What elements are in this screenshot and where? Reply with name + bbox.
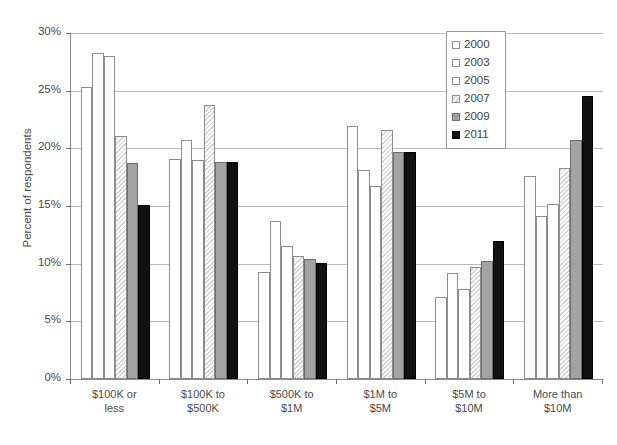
legend-label: 2011	[464, 129, 489, 141]
x-axis-label-line: More than	[513, 388, 602, 402]
bar-2000	[347, 126, 359, 379]
legend-item-2005[interactable]: 2005	[452, 72, 501, 90]
x-axis-label-line: less	[70, 402, 159, 416]
x-axis-label: $100K orless	[70, 388, 159, 415]
bar-2003	[536, 216, 548, 379]
legend-label: 2005	[464, 75, 490, 87]
x-axis-tick	[70, 379, 71, 384]
x-axis-label-line: $5M to	[425, 388, 514, 402]
bar-2011	[493, 241, 505, 379]
legend-label: 2009	[464, 111, 490, 123]
bar-2003	[447, 273, 459, 379]
x-axis-label-line: $500K	[159, 402, 248, 416]
bar-2011	[404, 152, 416, 379]
bar-2005	[458, 289, 470, 379]
x-axis-tick	[425, 379, 426, 384]
bar-2005	[104, 56, 116, 379]
x-axis-label-line: $1M	[247, 402, 336, 416]
bar-2009	[127, 163, 139, 379]
x-axis-label: $5M to$10M	[425, 388, 514, 415]
bar-2000	[435, 297, 447, 379]
bar-2005	[370, 186, 382, 379]
bar-group	[514, 33, 603, 379]
x-axis-tick	[247, 379, 248, 384]
bar-chart: Percent of respondents 0%5%10%15%20%25%3…	[0, 0, 617, 445]
bar-2005	[547, 204, 559, 379]
bar-2011	[138, 205, 150, 379]
x-axis-label: $1M to$5M	[336, 388, 425, 415]
x-axis-tick	[513, 379, 514, 384]
bar-group	[71, 33, 160, 379]
legend-swatch-icon	[452, 59, 460, 67]
x-axis-label-line: $10M	[513, 402, 602, 416]
chart-legend: 200020032005200720092011	[446, 31, 506, 149]
legend-label: 2000	[464, 39, 490, 51]
bar-2009	[304, 259, 316, 379]
bar-2007	[293, 256, 305, 379]
y-axis-tick-label: 0%	[15, 371, 61, 383]
bar-2003	[92, 53, 104, 379]
bar-group	[160, 33, 249, 379]
bar-2009	[393, 152, 405, 379]
bar-2000	[169, 159, 181, 379]
x-axis-label-line: $100K to	[159, 388, 248, 402]
bar-2007	[204, 105, 216, 379]
bar-2011	[316, 263, 328, 379]
legend-item-2003[interactable]: 2003	[452, 54, 501, 72]
x-axis-label: $500K to$1M	[247, 388, 336, 415]
bar-2009	[215, 162, 227, 379]
y-axis-tick-label: 25%	[15, 83, 61, 95]
x-axis-label-line: $5M	[336, 402, 425, 416]
bar-2007	[559, 168, 571, 379]
bar-2000	[258, 272, 270, 379]
bar-2005	[281, 246, 293, 379]
bar-2000	[81, 87, 93, 379]
bar-2011	[582, 96, 594, 379]
x-axis-label-line: $1M to	[336, 388, 425, 402]
bar-2007	[381, 130, 393, 379]
bar-2003	[181, 140, 193, 379]
bar-2011	[227, 162, 239, 379]
legend-item-2000[interactable]: 2000	[452, 36, 501, 54]
legend-swatch-icon	[452, 95, 460, 103]
x-axis-label-line: $10M	[425, 402, 514, 416]
x-axis-label-line: $500K to	[247, 388, 336, 402]
x-axis-label: More than$10M	[513, 388, 602, 415]
bar-group	[337, 33, 426, 379]
bar-2009	[570, 140, 582, 379]
y-axis-tick-label: 10%	[15, 256, 61, 268]
y-axis-title: Percent of respondents	[21, 58, 33, 318]
legend-item-2007[interactable]: 2007	[452, 90, 501, 108]
y-axis-tick-label: 30%	[15, 25, 61, 37]
y-axis-tick-label: 5%	[15, 313, 61, 325]
bar-2003	[270, 221, 282, 379]
legend-swatch-icon	[452, 41, 460, 49]
x-axis-tick	[602, 379, 603, 384]
x-axis-label: $100K to$500K	[159, 388, 248, 415]
bar-2000	[524, 176, 536, 379]
x-axis-tick	[159, 379, 160, 384]
bar-2005	[192, 160, 204, 379]
x-axis-tick	[336, 379, 337, 384]
bar-2007	[115, 136, 127, 379]
y-axis-tick-label: 15%	[15, 198, 61, 210]
legend-swatch-icon	[452, 77, 460, 85]
legend-swatch-icon	[452, 131, 460, 139]
bar-group	[248, 33, 337, 379]
y-axis-tick-label: 20%	[15, 140, 61, 152]
x-axis-label-line: $100K or	[70, 388, 159, 402]
legend-item-2009[interactable]: 2009	[452, 108, 501, 126]
legend-label: 2007	[464, 93, 490, 105]
plot-area: 0%5%10%15%20%25%30%	[70, 33, 603, 380]
bar-2007	[470, 267, 482, 379]
legend-label: 2003	[464, 57, 490, 69]
bar-2009	[481, 261, 493, 379]
bar-2003	[358, 170, 370, 379]
legend-swatch-icon	[452, 113, 460, 121]
legend-item-2011[interactable]: 2011	[452, 126, 501, 144]
